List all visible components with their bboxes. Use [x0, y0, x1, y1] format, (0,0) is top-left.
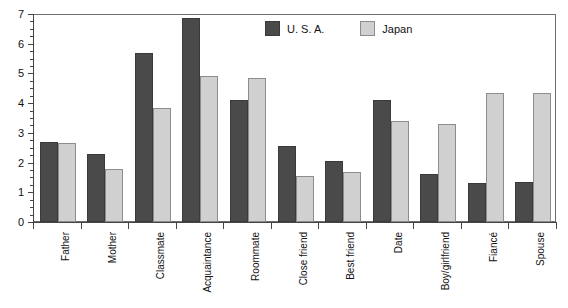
y-tick-minor: [30, 155, 34, 156]
y-tick-major: [28, 192, 34, 193]
x-axis-category-label: Roommate: [251, 232, 261, 281]
y-tick-minor: [30, 215, 34, 216]
x-axis-category-label: Close friend: [299, 232, 309, 285]
y-tick-minor: [30, 118, 34, 119]
y-tick-minor: [30, 140, 34, 141]
y-axis-tick-label: 4: [0, 98, 24, 109]
bar: [373, 100, 391, 222]
x-tick: [176, 222, 177, 229]
y-tick-major: [28, 163, 34, 164]
y-tick-minor: [30, 125, 34, 126]
y-tick-minor: [30, 81, 34, 82]
x-tick: [223, 222, 224, 229]
bar: [87, 154, 105, 222]
bar: [438, 124, 456, 222]
y-tick-major: [28, 103, 34, 104]
y-tick-minor: [30, 185, 34, 186]
y-axis-tick-label: 2: [0, 157, 24, 168]
y-tick-major: [28, 14, 34, 15]
y-tick-minor: [30, 148, 34, 149]
x-axis-category-label: Father: [61, 232, 71, 261]
bar: [420, 174, 438, 222]
y-axis-tick-label: 6: [0, 38, 24, 49]
x-tick: [128, 222, 129, 229]
bar: [248, 78, 266, 222]
x-tick: [366, 222, 367, 229]
legend-swatch-usa: [265, 21, 280, 36]
bar-chart: 01234567 FatherMotherClassmateAcquaintan…: [0, 0, 568, 308]
x-tick: [508, 222, 509, 229]
bar: [200, 76, 218, 222]
bar: [135, 53, 153, 222]
x-axis-category-label: Classmate: [156, 232, 166, 279]
x-axis-category-label: Boy/girlfriend: [441, 232, 451, 290]
x-tick: [271, 222, 272, 229]
y-axis: [33, 14, 34, 222]
y-tick-minor: [30, 111, 34, 112]
bar: [325, 161, 343, 222]
y-tick-minor: [30, 21, 34, 22]
x-axis-category-label: Spouse: [536, 232, 546, 266]
x-axis-category-label: Date: [394, 232, 404, 253]
bar: [230, 100, 248, 222]
bar: [515, 182, 533, 222]
legend-swatch-japan: [360, 21, 375, 36]
y-tick-minor: [30, 88, 34, 89]
x-tick: [413, 222, 414, 229]
bar: [533, 93, 551, 222]
bar: [40, 142, 58, 222]
x-axis-category-label: Mother: [108, 232, 118, 263]
bar: [153, 108, 171, 222]
bar: [278, 146, 296, 222]
y-tick-major: [28, 73, 34, 74]
bar: [105, 169, 123, 222]
y-tick-major: [28, 44, 34, 45]
legend-label: Japan: [382, 23, 412, 35]
y-tick-minor: [30, 177, 34, 178]
bar: [486, 93, 504, 222]
y-axis-tick-label: 7: [0, 9, 24, 20]
y-tick-minor: [30, 59, 34, 60]
x-tick: [318, 222, 319, 229]
y-axis-tick-label: 0: [0, 217, 24, 228]
bar: [391, 121, 409, 222]
y-tick-major: [28, 133, 34, 134]
y-tick-minor: [30, 96, 34, 97]
x-axis-category-label: Best friend: [346, 232, 356, 280]
y-tick-minor: [30, 51, 34, 52]
y-tick-minor: [30, 29, 34, 30]
x-axis: [33, 222, 556, 223]
y-tick-minor: [30, 170, 34, 171]
bar: [296, 176, 314, 222]
x-axis-category-label: Acquaintance: [203, 232, 213, 293]
bar: [58, 143, 76, 222]
y-axis-tick-label: 1: [0, 187, 24, 198]
y-tick-minor: [30, 66, 34, 67]
chart-legend: U. S. A.Japan: [265, 21, 412, 36]
x-tick: [81, 222, 82, 229]
y-tick-minor: [30, 36, 34, 37]
bar: [182, 18, 200, 222]
bars-layer: [34, 14, 556, 222]
x-tick: [33, 222, 34, 229]
legend-label: U. S. A.: [287, 23, 324, 35]
y-tick-minor: [30, 207, 34, 208]
bar: [468, 183, 486, 222]
y-axis-tick-label: 3: [0, 127, 24, 138]
y-axis-tick-label: 5: [0, 68, 24, 79]
bar: [343, 172, 361, 223]
y-tick-minor: [30, 200, 34, 201]
x-tick: [461, 222, 462, 229]
x-axis-category-label: Fiancé: [489, 232, 499, 262]
x-tick: [556, 222, 557, 229]
